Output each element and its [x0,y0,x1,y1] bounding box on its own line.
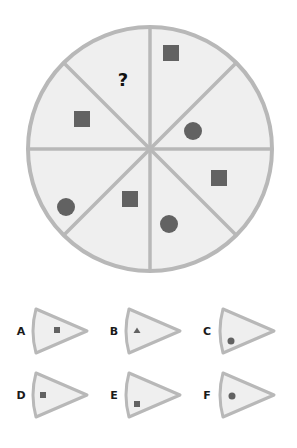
option-e[interactable]: E [110,373,180,417]
wedge-outline [126,373,180,417]
option-label: D [16,389,25,402]
option-label: C [203,325,211,338]
options: A B C D E F [16,309,274,417]
square-shape [163,45,179,61]
question-mark: ? [118,69,128,90]
wedge-outline [220,373,274,417]
option-d[interactable]: D [16,373,87,417]
option-a[interactable]: A [17,309,87,353]
wheel: ? [28,27,272,271]
square-shape [40,392,46,398]
square-shape [134,401,140,407]
option-label: F [203,389,211,402]
option-label: B [110,325,118,338]
wheel-dividers [28,27,272,271]
circle-shape [229,393,236,400]
circle-shape [184,122,202,140]
square-shape [211,170,227,186]
option-c[interactable]: C [203,309,274,353]
circle-shape [57,198,75,216]
square-shape [54,327,60,333]
option-f[interactable]: F [203,373,274,417]
circle-shape [228,338,235,345]
option-label: A [17,325,26,338]
square-shape [74,111,90,127]
option-label: E [110,389,118,402]
square-shape [122,191,138,207]
circle-shape [160,215,178,233]
wedge-outline [220,309,274,353]
option-b[interactable]: B [110,309,180,353]
puzzle-canvas: ? A B C D E [0,0,297,448]
wedge-outline [126,309,180,353]
